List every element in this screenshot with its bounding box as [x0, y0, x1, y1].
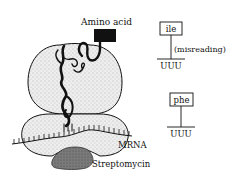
amino-acid-label: Amino acid — [80, 17, 132, 27]
ribosome-large-subunit — [28, 44, 122, 115]
misreading-note: (misreading) — [174, 45, 226, 54]
mrna-label: MRNA — [118, 140, 148, 150]
amino-acid-phe: phe — [174, 95, 190, 105]
amino-acid-ile: ile — [166, 24, 176, 34]
streptomycin-label: Streptomycin — [92, 159, 151, 169]
codon-ile: UUU — [160, 61, 182, 71]
amino-acid-block — [94, 29, 116, 42]
codon-phe: UUU — [170, 129, 192, 139]
codon-panel-phe: phe UUU — [167, 93, 195, 139]
ribosome-streptomycin-diagram: Amino acid MRNA Streptomycin ile UUU (mi… — [0, 0, 237, 178]
codon-panel-ile: ile UUU (misreading) — [157, 22, 226, 71]
